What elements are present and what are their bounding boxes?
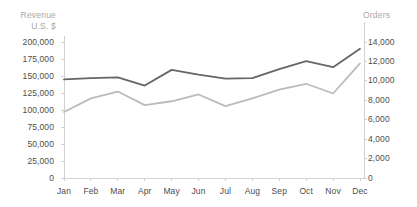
chart-container: Revenue U.S. $ Orders 025,00050,00075,00…	[0, 0, 417, 207]
data-series-group	[64, 49, 360, 112]
series-line-revenue-u-s	[64, 49, 360, 86]
axis-spines	[64, 22, 364, 178]
axis-tick-marks	[61, 42, 367, 181]
plot-area	[0, 0, 417, 207]
series-line-orders	[64, 63, 360, 112]
